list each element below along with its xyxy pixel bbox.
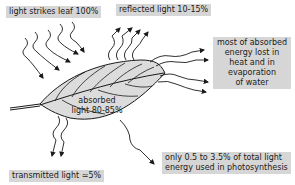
incoming-light-arrows	[23, 22, 84, 78]
transmitted-light-arrows	[52, 116, 68, 156]
photosynthesis-arrow	[120, 120, 154, 164]
transmitted-light-label: transmitted light ≃5%	[9, 170, 104, 182]
heat-loss-line-2: energy lost in	[216, 48, 288, 58]
heat-loss-line-4: evaporation	[216, 68, 288, 78]
reflected-light-label: reflected light 10-15%	[116, 4, 211, 16]
absorbed-line-2: light 80-85%	[62, 106, 132, 116]
photosynthesis-label: only 0.5 to 3.5% of total light energy u…	[162, 152, 291, 174]
absorbed-line-1: absorbed	[62, 96, 132, 106]
heat-loss-line-3: heat and in	[216, 58, 288, 68]
photosynthesis-line-1: only 0.5 to 3.5% of total light	[165, 153, 288, 163]
absorbed-light-label: absorbed light 80-85%	[62, 96, 132, 116]
photosynthesis-line-2: energy used in photosynthesis	[165, 163, 288, 173]
heat-loss-line-5: of water	[216, 78, 288, 88]
heat-loss-line-1: most of absorbed	[216, 38, 288, 48]
light-strikes-label: light strikes leaf 100%	[6, 6, 101, 18]
reflected-light-arrows	[108, 28, 148, 60]
heat-loss-label: most of absorbed energy lost in heat and…	[213, 37, 291, 89]
